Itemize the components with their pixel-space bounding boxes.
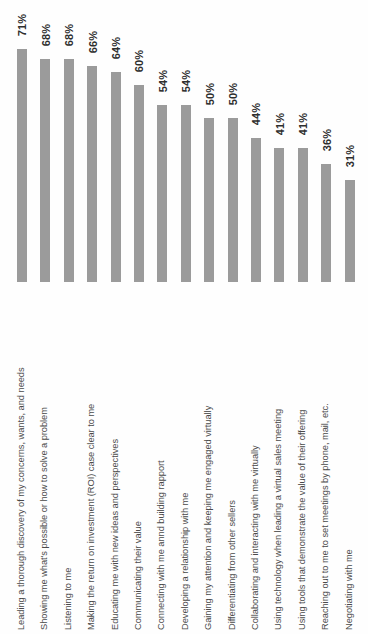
- category-label: Connecting with me annd building rapport: [156, 460, 167, 630]
- category-tick: Differentiating from other sellers: [222, 282, 245, 634]
- bar-group: 41%: [292, 0, 315, 282]
- bar-value-text: 41%: [297, 112, 309, 134]
- category-tick: Leading a thorough discovery of my conce…: [11, 282, 34, 634]
- bar-value-label: 44%: [245, 108, 268, 134]
- category-tick: Listening to me: [58, 282, 81, 634]
- category-tick: Developing a relationship with me: [175, 282, 198, 634]
- bar-group: 54%: [175, 0, 198, 282]
- bar: [134, 85, 144, 282]
- category-label: Using technology when leading a virtual …: [273, 409, 284, 630]
- category-label: Differentiating from other sellers: [227, 500, 238, 630]
- bar-value-text: 64%: [110, 37, 122, 59]
- category-tick: Gaining my attention and keeping me enga…: [198, 282, 221, 634]
- bar: [111, 72, 121, 282]
- bar-group: 36%: [315, 0, 338, 282]
- bar-value-label: 54%: [151, 75, 174, 101]
- bar-group: 68%: [58, 0, 81, 282]
- bar: [345, 180, 355, 282]
- bar-value-label: 50%: [222, 88, 245, 114]
- bar: [181, 105, 191, 282]
- category-tick: Communicating their value: [128, 282, 151, 634]
- category-label: Educating me with new ideas and perspect…: [110, 439, 121, 630]
- bar-group: 31%: [339, 0, 362, 282]
- bar-group: 64%: [105, 0, 128, 282]
- bar: [251, 138, 261, 282]
- category-tick: Reaching out to me to set meetings by ph…: [315, 282, 338, 634]
- category-tick: Collaborating and interacting with me vi…: [245, 282, 268, 634]
- category-tick: Connecting with me annd building rapport: [151, 282, 174, 634]
- category-label: Developing a relationship with me: [180, 493, 191, 630]
- bar-value-label: 68%: [58, 29, 81, 55]
- bar: [87, 66, 97, 282]
- bar-value-label: 31%: [339, 150, 362, 176]
- bar-value-text: 60%: [133, 50, 145, 72]
- category-tick: Using technology when leading a virtual …: [268, 282, 291, 634]
- bar: [274, 148, 284, 282]
- bar: [17, 49, 27, 282]
- category-label: Reaching out to me to set meetings by ph…: [320, 403, 331, 630]
- category-tick: Negotiating with me: [339, 282, 362, 634]
- bar-value-text: 31%: [344, 145, 356, 167]
- category-label: Listening to me: [63, 568, 74, 630]
- category-label: Collaborating and interacting with me vi…: [250, 445, 261, 630]
- bar-group: 68%: [34, 0, 57, 282]
- bar: [204, 118, 214, 282]
- bar: [298, 148, 308, 282]
- bar-value-text: 54%: [157, 70, 169, 92]
- bar-group: 44%: [245, 0, 268, 282]
- bar-chart: 71%68%68%66%64%60%54%54%50%50%44%41%41%3…: [0, 0, 368, 634]
- category-label: Using tools that demonstrate the value o…: [297, 410, 308, 630]
- bar-group: 66%: [81, 0, 104, 282]
- bar: [64, 59, 74, 282]
- category-label: Showing me what's possible or how to sol…: [39, 407, 50, 630]
- bar-value-label: 66%: [81, 36, 104, 62]
- bar-value-label: 50%: [198, 88, 221, 114]
- bar-group: 54%: [151, 0, 174, 282]
- bar-group: 60%: [128, 0, 151, 282]
- bar-value-text: 54%: [180, 70, 192, 92]
- category-tick: Using tools that demonstrate the value o…: [292, 282, 315, 634]
- category-label: Negotiating with me: [344, 549, 355, 630]
- bar-value-text: 44%: [250, 103, 262, 125]
- chart-category-axis: Leading a thorough discovery of my conce…: [0, 282, 368, 634]
- bar-group: 41%: [268, 0, 291, 282]
- category-label: Making the return on investment (ROI) ca…: [86, 404, 97, 630]
- bar-group: 71%: [11, 0, 34, 282]
- bar-value-label: 64%: [105, 42, 128, 68]
- bar-value-text: 68%: [40, 24, 52, 46]
- bar-value-text: 66%: [87, 30, 99, 52]
- bar-value-label: 54%: [175, 75, 198, 101]
- bar: [157, 105, 167, 282]
- bar-group: 50%: [198, 0, 221, 282]
- bar-value-text: 36%: [321, 129, 333, 151]
- category-label: Leading a thorough discovery of my conce…: [16, 367, 27, 630]
- bar-value-label: 36%: [315, 134, 338, 160]
- bar-value-label: 71%: [11, 19, 34, 45]
- bar-value-label: 41%: [268, 118, 291, 144]
- category-label: Communicating their value: [133, 521, 144, 630]
- bar-value-text: 68%: [63, 24, 75, 46]
- bar-value-text: 71%: [16, 14, 28, 36]
- bar: [321, 164, 331, 282]
- bar-value-label: 60%: [128, 55, 151, 81]
- bar: [228, 118, 238, 282]
- category-label: Gaining my attention and keeping me enga…: [203, 406, 214, 630]
- bar-value-text: 50%: [227, 83, 239, 105]
- bar-value-text: 41%: [274, 112, 286, 134]
- bar-group: 50%: [222, 0, 245, 282]
- bar-value-label: 41%: [292, 118, 315, 144]
- category-tick: Showing me what's possible or how to sol…: [34, 282, 57, 634]
- bar-value-label: 68%: [34, 29, 57, 55]
- bar-value-text: 50%: [204, 83, 216, 105]
- bar: [40, 59, 50, 282]
- category-tick: Educating me with new ideas and perspect…: [105, 282, 128, 634]
- category-tick: Making the return on investment (ROI) ca…: [81, 282, 104, 634]
- chart-plot-area: 71%68%68%66%64%60%54%54%50%50%44%41%41%3…: [0, 0, 368, 282]
